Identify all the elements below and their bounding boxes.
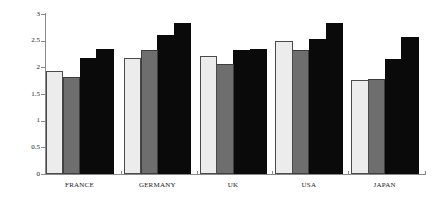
y-axis-tick-label: 0.5 [2, 144, 40, 151]
bar [326, 23, 343, 174]
bar [141, 50, 158, 174]
bar [309, 39, 326, 174]
y-axis-tick-label: 1.5 [2, 91, 40, 98]
bar [351, 80, 368, 174]
bar [216, 64, 233, 174]
bar [63, 77, 80, 174]
x-axis-category-label: GERMANY [117, 181, 197, 189]
x-axis-category-label: FRANCE [40, 181, 120, 189]
y-axis-tick-label: 2.5 [2, 37, 40, 44]
bar [401, 37, 418, 174]
x-axis-category-label: USA [269, 181, 349, 189]
y-axis-tick-label: 3 [2, 11, 40, 18]
bar [275, 41, 292, 174]
bar [368, 79, 385, 174]
bar [96, 49, 113, 174]
y-axis-tick-label: 1 [2, 117, 40, 124]
x-axis-category-label: UK [193, 181, 273, 189]
bar-group [46, 14, 113, 174]
bar-group [124, 14, 191, 174]
x-axis-end-tick [425, 171, 426, 175]
bar-group [275, 14, 342, 174]
y-axis-tick-label: 0 [2, 171, 40, 178]
bar [200, 56, 217, 174]
bar [80, 58, 97, 174]
x-axis-line [45, 174, 426, 175]
x-axis-category-label: JAPAN [345, 181, 425, 189]
plot-area [46, 14, 425, 174]
bar [46, 71, 63, 174]
bar [292, 50, 309, 174]
bar [157, 35, 174, 174]
bar [233, 50, 250, 174]
bar [124, 58, 141, 174]
bar [385, 59, 402, 174]
bar-chart: 00.511.522.53 FRANCEGERMANYUKUSAJAPAN [0, 0, 445, 201]
y-axis-tick-label: 2 [2, 64, 40, 71]
y-axis-tick-mark [41, 174, 46, 175]
bar [174, 23, 191, 174]
bar-group [200, 14, 267, 174]
y-axis-tick-labels: 00.511.522.53 [0, 0, 40, 201]
bar [250, 49, 267, 174]
bar-group [351, 14, 418, 174]
